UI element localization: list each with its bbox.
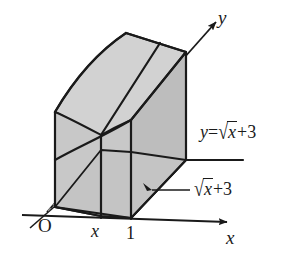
tick-label-x: x (91, 222, 99, 240)
curve-equation-equals: = (208, 122, 218, 142)
cross-section-radicand: x (203, 178, 213, 198)
curve-equation-radicand: x (227, 121, 237, 141)
curve-equation-plus: + (237, 122, 247, 142)
cross-section-plus: + (213, 179, 223, 199)
cross-section-height-label: √x+3 (194, 178, 232, 198)
curve-equation-constant: 3 (247, 122, 256, 142)
cross-section-radical: √x (194, 178, 213, 198)
x-axis-label: x (226, 228, 234, 247)
figure-container: y x O x 1 y=√x+3 √x+3 (0, 0, 307, 263)
cross-section-constant: 3 (223, 179, 232, 199)
radical-sign-icon: √ (218, 120, 228, 143)
tick-label-one: 1 (126, 224, 135, 242)
curve-equation-lhs: y (200, 122, 208, 142)
curve-equation-radical: √x (218, 121, 237, 141)
radical-sign-icon-2: √ (194, 177, 204, 200)
curve-equation-label: y=√x+3 (200, 121, 256, 141)
y-axis-label: y (218, 8, 226, 27)
origin-label: O (38, 216, 52, 235)
